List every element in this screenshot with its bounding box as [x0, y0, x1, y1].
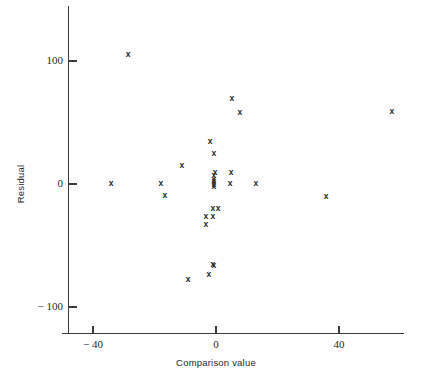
data-point: x	[186, 274, 191, 284]
data-point: x	[228, 178, 233, 188]
data-point: x	[211, 211, 216, 221]
x-tick-label-neg40: − 40	[83, 338, 103, 350]
data-point: x	[159, 178, 164, 188]
data-point: x	[163, 190, 168, 200]
scatter-chart: 100 0 − 100 − 40 0 40 Comparison value R…	[0, 0, 422, 384]
data-point: x	[324, 191, 329, 201]
data-point: x	[230, 93, 235, 103]
data-point: x	[109, 178, 114, 188]
data-point: x	[203, 219, 208, 229]
data-point: x	[216, 203, 221, 213]
data-point-group: xxxxxxxxxxxxxxxxxxxxxxxxxxxxx	[109, 49, 395, 284]
data-point: x	[229, 167, 234, 177]
data-point: x	[390, 106, 395, 116]
y-axis-ticks: 100 0 − 100	[38, 54, 77, 312]
data-point: x	[126, 49, 131, 59]
data-point: x	[211, 181, 216, 191]
data-point: x	[213, 167, 218, 177]
data-point: x	[254, 178, 259, 188]
data-point: x	[238, 107, 243, 117]
data-point: x	[180, 160, 185, 170]
y-tick-label-neg100: − 100	[38, 300, 64, 312]
x-tick-label-0: 0	[213, 338, 219, 350]
plot-area: 100 0 − 100 − 40 0 40 Comparison value R…	[0, 0, 422, 384]
data-point: x	[211, 148, 216, 158]
x-tick-label-40: 40	[334, 338, 346, 350]
y-tick-label-0: 0	[58, 177, 64, 189]
data-point: x	[211, 260, 216, 270]
x-axis-title: Comparison value	[176, 357, 256, 368]
y-axis-title: Residual	[15, 165, 26, 204]
x-axis-ticks: − 40 0 40	[83, 326, 345, 351]
y-tick-label-100: 100	[47, 54, 64, 66]
data-point: x	[207, 269, 212, 279]
data-point: x	[208, 136, 213, 146]
